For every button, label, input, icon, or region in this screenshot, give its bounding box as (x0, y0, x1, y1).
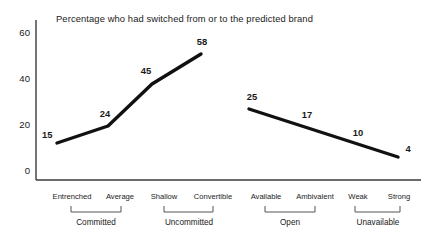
group-label-committed: Committed (76, 218, 116, 227)
line-chart: 60 40 20 0 Percentage who had switched f… (0, 0, 430, 237)
category-label-weak: Weak (348, 192, 367, 201)
chart-container: 60 40 20 0 Percentage who had switched f… (0, 0, 430, 237)
chart-title: Percentage who had switched from or to t… (56, 13, 313, 24)
value-label-convertible: 58 (197, 36, 207, 47)
group-label-unavailable: Unavailable (357, 218, 400, 227)
category-label-average: Average (106, 192, 134, 201)
group-label-uncommitted: Uncommitted (165, 218, 214, 227)
category-label-convertible: Convertible (194, 192, 232, 201)
y-tick-label-20: 20 (19, 119, 30, 130)
category-label-ambivalent: Ambivalent (296, 192, 334, 201)
chart-background (0, 0, 430, 237)
value-label-ambivalent: 17 (302, 109, 312, 120)
category-label-available: Available (251, 192, 282, 201)
value-label-weak: 10 (353, 127, 363, 138)
group-label-open: Open (280, 218, 300, 227)
category-label-strong: Strong (388, 192, 410, 201)
value-label-average: 24 (100, 108, 111, 119)
value-label-shallow: 45 (141, 65, 151, 76)
value-label-available: 25 (247, 91, 257, 102)
y-tick-label-40: 40 (19, 73, 30, 84)
category-label-entrenched: Entrenched (53, 192, 92, 201)
value-label-entrenched: 15 (42, 129, 52, 140)
value-label-strong: 4 (405, 143, 411, 154)
y-tick-label-60: 60 (19, 27, 30, 38)
y-tick-label-0: 0 (25, 165, 30, 176)
category-label-shallow: Shallow (151, 192, 178, 201)
